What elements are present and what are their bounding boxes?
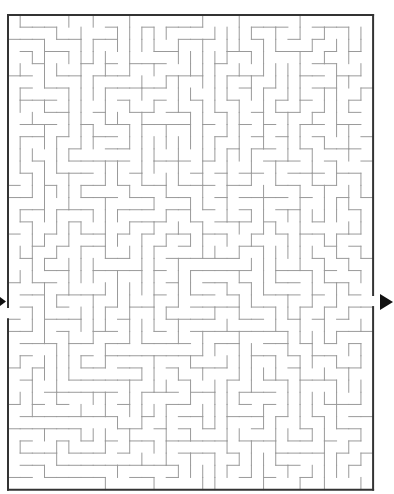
maze-border [8, 15, 373, 490]
maze-board [0, 0, 394, 494]
entrance-arrow-icon [0, 297, 6, 306]
exit-arrow-icon [380, 294, 393, 310]
maze-walls [8, 15, 373, 490]
